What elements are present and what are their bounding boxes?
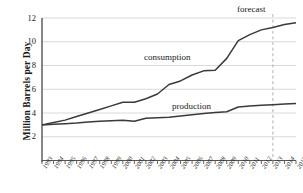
gridlines [42,18,296,137]
y-tick-label-4: 4 [20,108,36,118]
oil-consumption-production-chart: Million Barrels per Day 24681012 1993199… [0,0,303,193]
forecast-annotation-label: forecast [237,4,265,14]
consumption-line [42,23,296,125]
production-line [42,104,296,125]
production-series-label: production [172,101,211,111]
consumption-series-label: consumption [144,52,191,62]
y-tick-label-2: 2 [20,131,36,141]
y-tick-label-6: 6 [20,84,36,94]
y-tick-label-8: 8 [20,60,36,70]
y-tick-label-12: 12 [20,13,36,23]
y-tick-label-10: 10 [20,36,36,46]
